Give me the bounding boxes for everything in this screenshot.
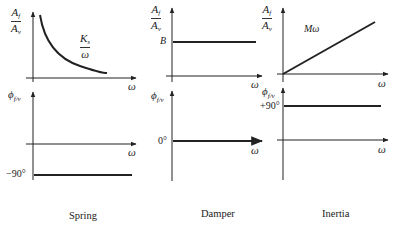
inertia-magnitude-plot — [277, 8, 388, 82]
damper-level-label: B — [160, 35, 166, 46]
frequency-response-diagram — [0, 0, 396, 232]
damper-phase-xlabel: ω — [251, 144, 259, 156]
inertia-curve-label: Mω — [304, 23, 319, 34]
inertia-phase-value-label: +90° — [260, 100, 280, 111]
ylabel-den: A — [151, 19, 158, 31]
inertia-mag-ylabel: Af Av — [262, 4, 272, 33]
ylabel-num-sub: f — [269, 9, 271, 17]
ylabel-num-sub: f — [18, 12, 20, 20]
spring-mag-xlabel: ω — [128, 80, 136, 92]
damper-caption: Damper — [201, 208, 235, 219]
spring-phase-ylabel: ϕf/v — [8, 88, 21, 103]
spring-caption: Spring — [69, 210, 97, 221]
damper-phase-ylabel: ϕf/v — [151, 89, 164, 104]
spring-phase-value-label: −90° — [6, 168, 26, 179]
ylabel-den: A — [11, 22, 18, 34]
phi-sub: f/v — [14, 95, 21, 103]
ylabel-num-sub: f — [158, 9, 160, 17]
damper-mag-ylabel: Af Av — [151, 4, 161, 33]
ylabel-den-sub: v — [269, 25, 272, 33]
phi-sub: f/v — [157, 96, 164, 104]
ylabel-den-sub: v — [158, 25, 161, 33]
ylabel-den: A — [262, 19, 269, 31]
curve-label-num-sub: s — [87, 38, 90, 46]
curve-label-den: ω — [81, 49, 89, 60]
spring-mag-ylabel: Af Av — [11, 7, 21, 36]
spring-curve-label: Ks ω — [80, 33, 90, 60]
ylabel-den-sub: v — [18, 28, 21, 36]
inertia-phase-ylabel: ϕf/v — [262, 85, 275, 100]
inertia-phase-plot — [277, 88, 388, 180]
inertia-phase-xlabel: ω — [378, 143, 386, 155]
inertia-mag-xlabel: ω — [378, 77, 386, 89]
spring-magnitude-curve — [40, 15, 107, 73]
spring-phase-xlabel: ω — [128, 146, 136, 158]
inertia-magnitude-line — [283, 22, 375, 74]
damper-phase-value-label: 0° — [158, 135, 167, 146]
inertia-caption: Inertia — [322, 208, 349, 219]
spring-phase-plot — [26, 92, 136, 180]
damper-phase-plot — [172, 91, 262, 181]
damper-magnitude-plot — [166, 8, 262, 82]
damper-mag-xlabel: ω — [251, 78, 259, 90]
phi-sub: f/v — [268, 92, 275, 100]
